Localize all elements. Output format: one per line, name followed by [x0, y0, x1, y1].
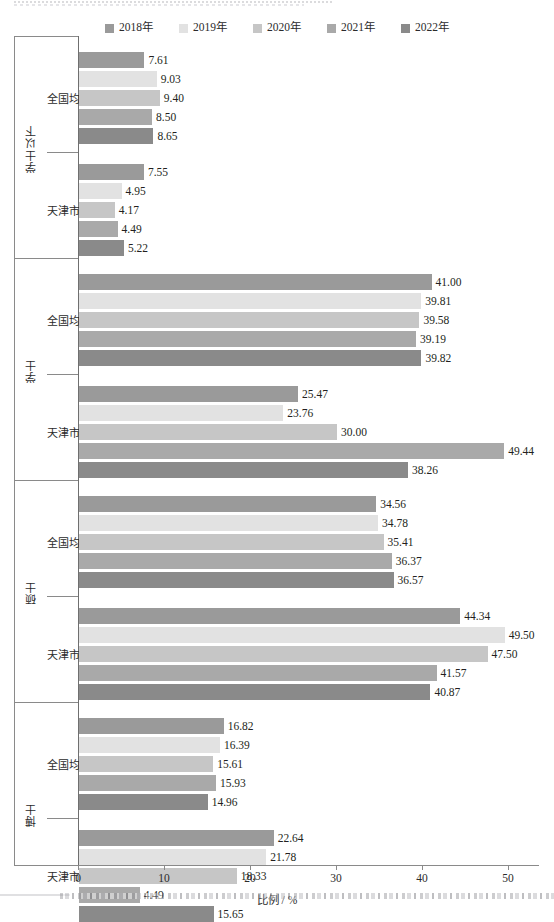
bar[interactable]	[79, 737, 220, 753]
bar[interactable]	[79, 52, 144, 68]
bar-value-label: 7.61	[148, 52, 168, 68]
bar[interactable]	[79, 405, 283, 421]
bar-value-label: 49.44	[508, 443, 534, 459]
bar[interactable]	[79, 627, 505, 643]
bar-value-label: 8.65	[157, 128, 177, 144]
bar[interactable]	[79, 553, 392, 569]
bar-value-label: 35.41	[388, 534, 414, 550]
bar[interactable]	[79, 183, 122, 199]
group-label-学士: 学士	[14, 264, 47, 478]
bar[interactable]	[79, 775, 216, 791]
bar-value-label: 4.95	[126, 183, 146, 199]
legend-item-2021年[interactable]: 2021年	[327, 22, 375, 34]
bar[interactable]	[79, 350, 421, 366]
bar[interactable]	[79, 443, 504, 459]
bar[interactable]	[79, 718, 224, 734]
bar[interactable]	[79, 906, 214, 922]
legend-swatch-icon	[401, 24, 410, 33]
bar[interactable]	[79, 665, 437, 681]
bar[interactable]	[79, 424, 337, 440]
group-label-学士以下: 学士以下	[14, 42, 47, 256]
bar[interactable]	[79, 202, 115, 218]
bar[interactable]	[79, 572, 394, 588]
bar[interactable]	[79, 90, 160, 106]
bar[interactable]	[79, 756, 213, 772]
bar[interactable]	[79, 274, 432, 290]
legend-label: 2021年	[341, 22, 375, 34]
x-axis-tick	[250, 866, 251, 870]
subgroup-label-全国均值: 全国均值	[47, 534, 76, 550]
bar[interactable]	[79, 646, 488, 662]
x-axis-tick-label: 20	[244, 872, 256, 884]
bar[interactable]	[79, 386, 298, 402]
bar-value-label: 36.37	[396, 553, 422, 569]
x-axis-tick-label: 40	[416, 872, 428, 884]
bar[interactable]	[79, 684, 430, 700]
bar[interactable]	[79, 849, 266, 865]
legend-label: 2022年	[415, 22, 449, 34]
legend-label: 2020年	[267, 22, 301, 34]
bar-value-label: 16.82	[228, 718, 254, 734]
bar-value-label: 38.26	[412, 462, 438, 478]
bar[interactable]	[79, 515, 378, 531]
legend-swatch-icon	[105, 24, 114, 33]
group-label-硕士: 硕士	[14, 486, 47, 700]
legend-item-2019年[interactable]: 2019年	[179, 22, 227, 34]
bar-value-label: 15.61	[217, 756, 243, 772]
bar-value-label: 16.39	[224, 737, 250, 753]
bar-value-label: 49.50	[509, 627, 535, 643]
bar[interactable]	[79, 608, 460, 624]
legend-swatch-icon	[327, 24, 336, 33]
bar[interactable]	[79, 109, 152, 125]
x-axis-tick	[422, 866, 423, 870]
subgroup-label-全国均值: 全国均值	[47, 312, 76, 328]
bottom-clipped-caption	[0, 893, 554, 905]
legend-label: 2019年	[193, 22, 227, 34]
bar[interactable]	[79, 830, 274, 846]
bar-value-label: 34.56	[380, 496, 406, 512]
bar[interactable]	[79, 496, 376, 512]
bar[interactable]	[79, 462, 408, 478]
x-axis-tick-label: 50	[502, 872, 514, 884]
bar-value-label: 9.40	[164, 90, 184, 106]
legend-item-2018年[interactable]: 2018年	[105, 22, 153, 34]
bar-value-label: 15.93	[220, 775, 246, 791]
subgroup-separator	[47, 596, 78, 597]
bar[interactable]	[79, 534, 384, 550]
subgroup-label-全国均值: 全国均值	[47, 90, 76, 106]
group-label-博士: 博士	[14, 708, 47, 922]
legend-item-2020年[interactable]: 2020年	[253, 22, 301, 34]
x-axis-tick	[508, 866, 509, 870]
chart-legend: 2018年2019年2020年2021年2022年	[0, 20, 554, 36]
bar[interactable]	[79, 128, 153, 144]
bar[interactable]	[79, 240, 124, 256]
bar-value-label: 39.82	[425, 350, 451, 366]
x-axis-tick-label: 0	[75, 872, 81, 884]
group-label-text: 博士	[23, 803, 39, 827]
bar-value-label: 8.50	[156, 109, 176, 125]
bar[interactable]	[79, 312, 419, 328]
bar-value-label: 44.34	[464, 608, 490, 624]
bar-value-label: 21.78	[270, 849, 296, 865]
subgroup-label-天津市: 天津市	[47, 646, 76, 662]
bar[interactable]	[79, 221, 118, 237]
subgroup-label-天津市: 天津市	[47, 424, 76, 440]
bar[interactable]	[79, 164, 144, 180]
subgroup-label-天津市: 天津市	[47, 202, 76, 218]
bar[interactable]	[79, 794, 208, 810]
bar-value-label: 34.78	[382, 515, 408, 531]
legend-swatch-icon	[253, 24, 262, 33]
bar-value-label: 41.57	[441, 665, 467, 681]
x-axis-tick-label: 10	[158, 872, 170, 884]
bar-value-label: 4.17	[119, 202, 139, 218]
bar[interactable]	[79, 331, 416, 347]
bar-value-label: 25.47	[302, 386, 328, 402]
bar-value-label: 7.55	[148, 164, 168, 180]
bar-value-label: 23.76	[287, 405, 313, 421]
bar-value-label: 14.96	[212, 794, 238, 810]
bar-value-label: 36.57	[398, 572, 424, 588]
bar[interactable]	[79, 293, 421, 309]
bar[interactable]	[79, 71, 157, 87]
legend-item-2022年[interactable]: 2022年	[401, 22, 449, 34]
